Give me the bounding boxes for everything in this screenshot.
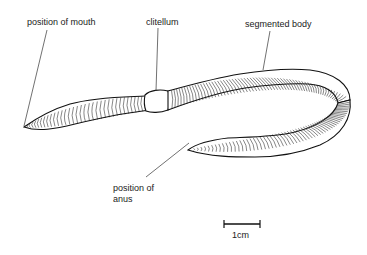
clitellum: [144, 90, 169, 112]
label-clitellum: clitellum: [146, 17, 179, 27]
label-position-of-anus-line1: position of: [113, 183, 155, 193]
mouth-leader-line: [24, 30, 47, 126]
clitellum-leader-line: [156, 28, 158, 91]
body-segment-ring: [323, 87, 324, 95]
body-segment-ring: [320, 86, 322, 95]
label-position-of-anus-line2: anus: [113, 194, 133, 204]
worm-anterior-section: [24, 96, 152, 130]
diagram-canvas: position of mouth clitellum segmented bo…: [0, 0, 367, 255]
worm-posterior-section: [188, 100, 350, 157]
scale-bar: 1cm: [224, 220, 260, 240]
segmented-body-leader-line: [263, 31, 270, 70]
anus-leader-line: [146, 143, 189, 177]
label-position-of-mouth: position of mouth: [27, 17, 96, 27]
worm-mid-section: [168, 69, 350, 110]
body-segment-ring: [325, 88, 327, 96]
body-segment-ring: [317, 85, 319, 94]
earthworm-diagram: position of mouth clitellum segmented bo…: [0, 0, 367, 255]
scale-bar-label: 1cm: [232, 230, 249, 240]
label-segmented-body: segmented body: [245, 19, 312, 29]
